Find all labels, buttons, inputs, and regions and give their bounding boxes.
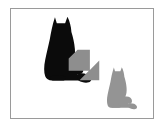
figure-graphic <box>11 9 153 118</box>
figure-root <box>0 0 167 131</box>
black-cat-silhouette <box>44 17 91 83</box>
gray-cat-silhouette <box>107 67 137 109</box>
figure-panel <box>10 8 154 119</box>
figure-canvas <box>11 9 153 118</box>
